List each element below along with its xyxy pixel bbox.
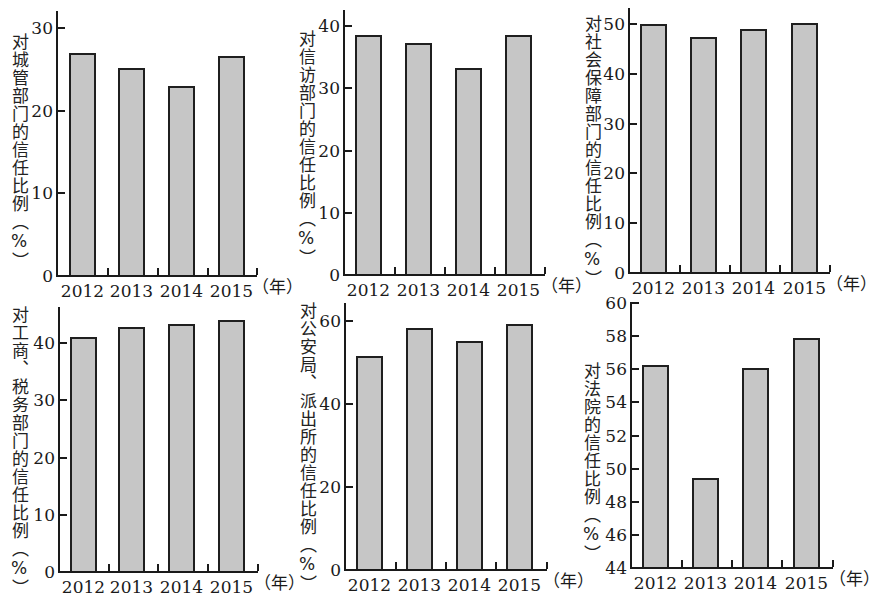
x-axis-line — [58, 571, 258, 573]
x-tick-label: 2012 — [345, 575, 395, 595]
y-tick-label: 56 — [593, 360, 627, 378]
x-tick — [729, 265, 731, 272]
bar-2015 — [505, 35, 532, 274]
y-tick-label: 20 — [591, 164, 625, 182]
y-axis-line — [343, 10, 345, 276]
x-tick — [681, 560, 683, 567]
y-tick-label: 20 — [307, 478, 341, 496]
y-tick — [346, 569, 353, 571]
bar-2013 — [118, 327, 145, 571]
y-tick-label: 10 — [21, 506, 55, 524]
x-tick-label: 2013 — [107, 281, 157, 301]
x-tick — [779, 265, 781, 272]
y-axis-title: 对社会保障部门的信任比例（%） — [582, 15, 602, 288]
y-tick — [630, 23, 637, 25]
y-axis-line — [628, 8, 630, 274]
x-tick-label: 2013 — [681, 573, 731, 593]
y-tick-label: 30 — [591, 115, 625, 133]
y-tick — [345, 274, 352, 276]
y-tick-label: 44 — [593, 559, 627, 577]
y-tick-label: 50 — [593, 460, 627, 478]
x-tick — [256, 268, 258, 275]
x-tick-label: 2012 — [631, 573, 681, 593]
bar-2015 — [218, 56, 245, 275]
y-tick — [58, 27, 65, 29]
x-tick — [207, 268, 209, 275]
y-tick — [630, 123, 637, 125]
y-axis-line — [344, 303, 346, 571]
x-tick-label: 2015 — [207, 281, 257, 301]
y-tick — [60, 457, 67, 459]
x-tick-label: 2014 — [157, 281, 207, 301]
y-tick-label: 30 — [306, 79, 340, 97]
bar-2012 — [69, 53, 96, 275]
y-tick-label: 60 — [593, 294, 627, 312]
bar-2014 — [456, 341, 483, 569]
y-tick — [632, 368, 639, 370]
x-tick — [494, 267, 496, 274]
x-axis-line — [344, 569, 547, 571]
x-tick — [731, 560, 733, 567]
x-tick — [679, 265, 681, 272]
y-tick-label: 10 — [19, 184, 53, 202]
bar-2013 — [405, 43, 432, 274]
y-tick — [60, 399, 67, 401]
bar-2014 — [740, 29, 767, 272]
x-tick-label: 2013 — [679, 278, 729, 298]
y-tick — [346, 486, 353, 488]
y-tick — [632, 401, 639, 403]
bar-2012 — [70, 337, 97, 571]
y-tick — [345, 25, 352, 27]
y-tick — [630, 172, 637, 174]
y-tick — [632, 435, 639, 437]
y-tick — [632, 335, 639, 337]
y-tick — [60, 514, 67, 516]
bar-2013 — [118, 68, 145, 275]
x-tick — [257, 564, 259, 571]
y-axis-title: 对公安局、派出所的信任比例（%） — [297, 302, 317, 593]
bar-2015 — [791, 23, 818, 272]
y-tick-label: 40 — [307, 395, 341, 413]
x-tick-label: 2012 — [629, 278, 679, 298]
y-tick-label: 10 — [591, 214, 625, 232]
x-tick — [157, 268, 159, 275]
x-tick — [832, 560, 834, 567]
bar-2015 — [793, 338, 820, 567]
x-tick — [394, 267, 396, 274]
x-tick — [207, 564, 209, 571]
y-tick-label: 20 — [21, 449, 55, 467]
bar-2013 — [692, 478, 719, 567]
x-tick-label: 2014 — [729, 278, 779, 298]
y-tick-label: 0 — [306, 266, 340, 284]
x-tick-label: 2015 — [782, 573, 832, 593]
x-tick — [157, 564, 159, 571]
x-tick-label: 2015 — [494, 280, 544, 300]
y-tick — [346, 403, 353, 405]
x-tick — [546, 562, 548, 569]
y-tick-label: 0 — [307, 561, 341, 579]
y-tick — [632, 302, 639, 304]
x-axis-line — [56, 275, 257, 277]
y-tick — [345, 150, 352, 152]
bar-2015 — [506, 324, 533, 569]
x-axis-unit: （年） — [252, 277, 303, 297]
y-tick — [632, 534, 639, 536]
x-tick — [781, 560, 783, 567]
y-tick — [632, 468, 639, 470]
y-tick — [346, 320, 353, 322]
x-tick-label: 2014 — [444, 280, 494, 300]
bar-2013 — [406, 328, 433, 569]
bar-2014 — [168, 86, 195, 275]
bar-2012 — [356, 356, 383, 569]
x-axis-line — [343, 274, 545, 276]
x-tick-label: 2013 — [395, 575, 445, 595]
bar-2015 — [218, 320, 245, 571]
x-tick-label: 2015 — [495, 575, 545, 595]
y-tick — [60, 342, 67, 344]
bar-2013 — [690, 37, 717, 272]
y-tick-label: 40 — [21, 334, 55, 352]
x-tick-label: 2015 — [780, 278, 830, 298]
bar-2012 — [355, 35, 382, 274]
y-tick-label: 40 — [591, 65, 625, 83]
y-tick — [60, 571, 67, 573]
